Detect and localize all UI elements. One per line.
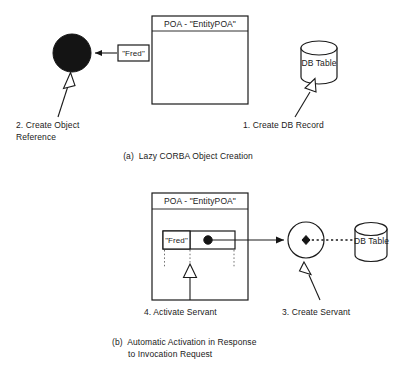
step1-leader bbox=[295, 79, 316, 118]
caption-b-line2: to Invocation Request bbox=[128, 348, 212, 360]
diagram-canvas bbox=[0, 0, 411, 377]
step2-leader bbox=[58, 73, 75, 118]
figure-root: POA - "EntityPOA" "Fred" DB Table 2. Cre… bbox=[0, 0, 411, 377]
fred-label-a: "Fred" bbox=[118, 48, 149, 59]
caption-b-line1: (b) Automatic Activation in Response bbox=[112, 336, 257, 348]
object-reference-circle-a bbox=[53, 34, 91, 72]
annotation-step-2-line2: Reference bbox=[16, 132, 56, 143]
step3-leader bbox=[300, 262, 321, 300]
fred-label-b: "Fred" bbox=[163, 235, 190, 246]
caption-a: (a) Lazy CORBA Object Creation bbox=[93, 150, 283, 162]
annotation-step-1-line1: 1. Create DB Record bbox=[243, 120, 324, 131]
poa-title-a: POA - "EntityPOA" bbox=[152, 19, 248, 30]
annotation-step-4-line1: 4. Activate Servant bbox=[144, 307, 217, 318]
db-table-label-b: DB Table bbox=[347, 236, 396, 247]
annotation-step-2-line1: 2. Create Object bbox=[16, 120, 80, 131]
annotation-step-3-line1: 3. Create Servant bbox=[282, 307, 350, 318]
db-table-label-a: DB Table bbox=[294, 58, 344, 69]
poa-title-b: POA - "EntityPOA" bbox=[152, 196, 248, 207]
